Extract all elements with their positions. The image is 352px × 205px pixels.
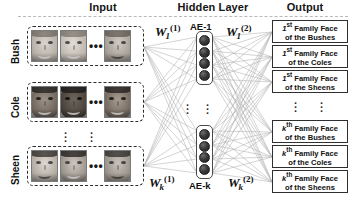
output-box-kth-sheens[interactable]: kth Family Face of the Sheens bbox=[272, 170, 348, 193]
hidden-block-label-aek: AE-k bbox=[189, 180, 211, 191]
output-box-kth-bushes[interactable]: kth Family Face of the Bushes bbox=[272, 120, 348, 143]
hidden-node bbox=[199, 129, 210, 140]
hidden-vertical-ellipsis-left: ... bbox=[186, 100, 189, 112]
output-vertical-ellipsis-left: ... bbox=[294, 98, 297, 110]
output-box-line1: 1st Family Face bbox=[282, 70, 337, 83]
input-vertical-ellipsis-left: ... bbox=[64, 128, 67, 140]
output-box-line2: of the Sheens bbox=[285, 183, 335, 193]
output-box-line1: kth Family Face bbox=[282, 120, 338, 133]
face-thumbnail bbox=[31, 150, 58, 182]
face-group-sheen: ••• bbox=[27, 146, 144, 186]
hidden-block-ae1 bbox=[196, 31, 213, 85]
output-box-line2: of the Sheens bbox=[285, 83, 335, 93]
column-header-input: Input bbox=[48, 1, 158, 13]
hidden-node bbox=[199, 70, 210, 81]
weight-label-w1-output: W1(2) bbox=[226, 23, 252, 41]
output-box-kth-coles[interactable]: kth Family Face of the Coles bbox=[272, 145, 348, 168]
output-vertical-ellipsis-right: ... bbox=[320, 98, 323, 110]
output-box-line1: 1st Family Face bbox=[282, 45, 337, 58]
column-header-hidden: Hidden Layer bbox=[158, 1, 268, 13]
weight-label-w1-input: W1(1) bbox=[155, 23, 181, 41]
face-group-cole: ••• bbox=[27, 82, 144, 122]
output-box-line2: of the Coles bbox=[288, 58, 331, 68]
input-row-label-sheen: Sheen bbox=[10, 155, 21, 185]
input-vertical-ellipsis-right: ... bbox=[90, 128, 93, 140]
output-box-1st-coles[interactable]: 1st Family Face of the Coles bbox=[272, 45, 348, 68]
weight-label-wk-output: Wk(2) bbox=[228, 174, 254, 192]
output-box-1st-bushes[interactable]: 1st Family Face of the Bushes bbox=[272, 20, 348, 43]
hidden-node bbox=[199, 164, 210, 175]
output-box-line1: kth Family Face bbox=[282, 145, 338, 158]
output-box-line2: of the Bushes bbox=[285, 33, 335, 43]
hidden-node bbox=[199, 141, 210, 152]
face-thumbnail bbox=[60, 30, 87, 62]
face-thumbnail bbox=[60, 150, 87, 182]
face-thumbnail bbox=[104, 30, 131, 62]
hidden-node bbox=[199, 35, 210, 46]
output-box-line1: kth Family Face bbox=[282, 170, 338, 183]
face-thumbnail bbox=[104, 150, 131, 182]
output-box-line2: of the Bushes bbox=[285, 133, 335, 143]
hidden-block-aek bbox=[196, 125, 213, 179]
output-box-1st-sheens[interactable]: 1st Family Face of the Sheens bbox=[272, 70, 348, 93]
output-box-line2: of the Coles bbox=[288, 158, 331, 168]
header-divider bbox=[18, 16, 348, 17]
figure-canvas: Input Hidden Layer Output Bush ••• Cole bbox=[0, 0, 352, 205]
input-horizontal-ellipsis: ••• bbox=[89, 151, 102, 181]
input-row-label-cole: Cole bbox=[10, 96, 21, 118]
weight-label-wk-input: Wk(1) bbox=[149, 174, 175, 192]
hidden-vertical-ellipsis-right: ... bbox=[206, 100, 209, 112]
face-thumbnail bbox=[60, 86, 87, 118]
hidden-node bbox=[199, 47, 210, 58]
face-thumbnail bbox=[31, 86, 58, 118]
column-header-output: Output bbox=[262, 1, 348, 13]
face-group-bush: ••• bbox=[27, 26, 144, 66]
face-thumbnail bbox=[31, 30, 58, 62]
face-thumbnail bbox=[104, 86, 131, 118]
output-box-line1: 1st Family Face bbox=[282, 20, 337, 33]
hidden-node bbox=[199, 152, 210, 163]
input-horizontal-ellipsis: ••• bbox=[89, 87, 102, 117]
input-row-label-bush: Bush bbox=[10, 39, 21, 64]
input-horizontal-ellipsis: ••• bbox=[89, 31, 102, 61]
hidden-node bbox=[199, 58, 210, 69]
